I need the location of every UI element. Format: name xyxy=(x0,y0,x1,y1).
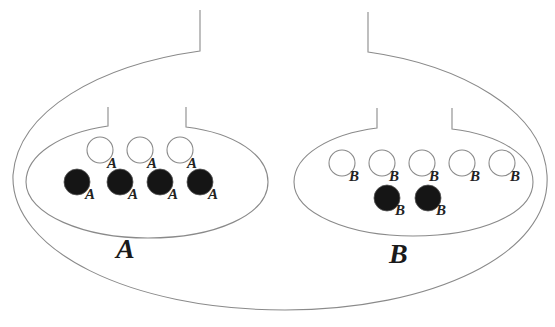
particle-label: A xyxy=(186,155,197,171)
particle-label: B xyxy=(348,168,359,184)
particle-label: A xyxy=(167,186,178,202)
diagram-canvas: A A A A A A A B B B B B B B A B xyxy=(0,0,555,327)
particle-label: B xyxy=(428,168,439,184)
compartment-b-open-particles: B B B B B xyxy=(329,150,520,184)
particle-label: A xyxy=(127,186,138,202)
compartment-b-filled-particles: B B xyxy=(374,185,446,218)
particle-label: A xyxy=(146,155,157,171)
compartment-a-filled-particles: A A A A xyxy=(64,169,218,202)
particle-label: B xyxy=(435,202,446,218)
particle-label: B xyxy=(509,168,520,184)
particle-label: A xyxy=(106,155,117,171)
compartment-a-label: A xyxy=(114,233,135,264)
particle-label: B xyxy=(388,168,399,184)
compartment-b-label: B xyxy=(388,238,408,269)
compartment-a xyxy=(26,107,268,238)
particle-label: A xyxy=(207,186,218,202)
compartment-a-open-particles: A A A xyxy=(87,137,197,171)
particle-label: B xyxy=(469,168,480,184)
particle-label: A xyxy=(84,186,95,202)
particle-label: B xyxy=(394,202,405,218)
